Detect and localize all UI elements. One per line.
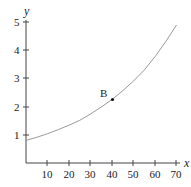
xtick-label: 70 xyxy=(171,168,183,180)
xtick-label: 30 xyxy=(85,168,97,180)
ytick-label: 1 xyxy=(14,129,20,141)
xtick-label: 20 xyxy=(64,168,76,180)
data-curve xyxy=(26,25,177,140)
point-b-marker xyxy=(111,98,114,101)
point-b-label: B xyxy=(100,87,107,99)
ytick-label: 2 xyxy=(14,101,20,113)
ytick-label: 3 xyxy=(14,72,20,84)
xtick-label: 60 xyxy=(150,168,162,180)
xtick-label: 50 xyxy=(128,168,140,180)
x-axis-label: x xyxy=(183,156,190,170)
xtick-label: 10 xyxy=(42,168,54,180)
xtick-label: 40 xyxy=(107,168,119,180)
chart: 5 4 3 2 1 10 20 30 40 50 60 70 y x B xyxy=(0,0,191,187)
ytick-label: 5 xyxy=(14,16,20,28)
ytick-label: 4 xyxy=(14,44,20,56)
y-axis-label: y xyxy=(23,4,30,18)
